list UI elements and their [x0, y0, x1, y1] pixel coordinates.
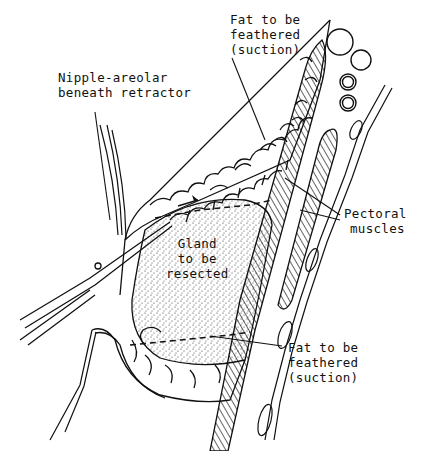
surgical-illustration: Fat to be feathered (suction) Nipple-are… — [0, 0, 435, 451]
label-fat-top: Fat to be feathered (suction) — [230, 12, 300, 57]
label-pectoral-muscles: Pectoral muscles — [344, 206, 407, 236]
label-fat-bottom: Fat to be feathered (suction) — [288, 340, 358, 385]
vessels — [327, 29, 371, 111]
hook-instrument — [50, 330, 96, 440]
label-nipple-areolar: Nipple-areolar beneath retractor — [58, 70, 191, 100]
retractor — [100, 125, 126, 238]
label-gland: Gland to be resected — [166, 236, 229, 281]
